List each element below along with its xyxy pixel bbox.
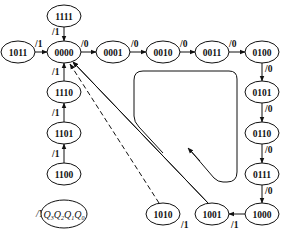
transition-label: /1 bbox=[51, 27, 60, 37]
state-label: 1111 bbox=[55, 12, 73, 22]
transition-label: /0 bbox=[80, 39, 89, 49]
state-diagram: /0/0/0/0/0/0/0/0/1/1/1/1/1/1/1 000000010… bbox=[0, 0, 281, 240]
transition-label: /0 bbox=[264, 186, 273, 196]
legend-state-label: Q3Q2Q1Q0 bbox=[44, 209, 85, 221]
state-node-1000: 1000 bbox=[245, 203, 279, 225]
state-node-1010: 1010 bbox=[146, 203, 180, 225]
state-node-0010: 0010 bbox=[146, 41, 180, 63]
transition-label: /0 bbox=[264, 104, 273, 114]
transition-label: /1 bbox=[34, 39, 43, 49]
transition-label: /1 bbox=[51, 149, 60, 159]
transition-label: /0 bbox=[264, 145, 273, 155]
state-node-0100: 0100 bbox=[245, 41, 279, 63]
state-label: 0100 bbox=[253, 48, 272, 58]
state-node-1100: 1100 bbox=[47, 163, 81, 185]
transition-label: /0 bbox=[130, 39, 139, 49]
state-node-1101: 1101 bbox=[47, 122, 81, 144]
state-label: 1101 bbox=[55, 129, 74, 139]
state-node-1001: 1001 bbox=[195, 203, 229, 225]
state-label: 0001 bbox=[104, 48, 123, 58]
state-node-0110: 0110 bbox=[245, 122, 279, 144]
state-label: 1010 bbox=[154, 210, 173, 220]
state-node-1111: 1111 bbox=[47, 5, 81, 27]
state-node-0001: 0001 bbox=[96, 41, 130, 63]
cycle-direction-indicator bbox=[134, 71, 237, 182]
transition-label: /1 bbox=[230, 220, 239, 230]
state-label: 0111 bbox=[253, 170, 271, 180]
transition-label: /0 bbox=[228, 39, 237, 49]
state-label: 1100 bbox=[55, 170, 74, 180]
state-node-0000: 0000 bbox=[47, 41, 81, 63]
state-label: 1011 bbox=[9, 48, 28, 58]
cycle-direction-arrow bbox=[188, 148, 200, 161]
state-node-1110: 1110 bbox=[47, 81, 81, 103]
state-label: 1000 bbox=[253, 210, 272, 220]
state-label: 0110 bbox=[253, 129, 272, 139]
state-label: 1001 bbox=[203, 210, 222, 220]
transition-label: /0 bbox=[179, 39, 188, 49]
state-node-1011: 1011 bbox=[1, 41, 35, 63]
state-label: 0010 bbox=[154, 48, 173, 58]
state-label: 0011 bbox=[203, 48, 222, 58]
transition-label: /1 bbox=[180, 220, 189, 230]
state-label: 1110 bbox=[55, 88, 73, 98]
transition-label: /1 bbox=[51, 108, 60, 118]
transition-label: /0 bbox=[264, 64, 273, 74]
state-node-0111: 0111 bbox=[245, 163, 279, 185]
transition-1001-to-0000 bbox=[73, 62, 208, 203]
state-node-0011: 0011 bbox=[195, 41, 229, 63]
legend: /Y Q3Q2Q1Q0 bbox=[35, 200, 87, 228]
state-node-0101: 0101 bbox=[245, 81, 279, 103]
transition-label: /1 bbox=[51, 67, 60, 77]
state-label: 0000 bbox=[55, 48, 74, 58]
state-label: 0101 bbox=[253, 88, 272, 98]
